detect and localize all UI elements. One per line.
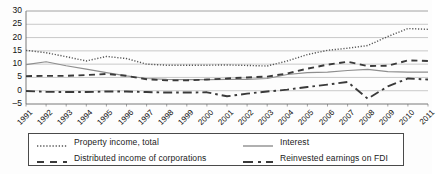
legend-item-interest: Interest xyxy=(225,134,405,150)
legend-label-interest: Interest xyxy=(280,137,309,147)
y-axis-tick-label: 30 xyxy=(0,5,22,15)
y-axis-tick-label: 10 xyxy=(0,58,22,68)
legend-label-reinvested-earnings: Reinvested earnings on FDI xyxy=(280,153,388,163)
y-axis-tick-label: 15 xyxy=(0,45,22,55)
legend-item-property-income: Property income, total xyxy=(29,134,225,150)
series-line-property-income-total xyxy=(26,29,428,66)
solid-line-swatch xyxy=(243,137,273,147)
legend-label-property-income: Property income, total xyxy=(74,137,159,147)
longdash-line-swatch xyxy=(243,153,273,163)
legend-item-reinvested-earnings: Reinvested earnings on FDI xyxy=(225,150,405,166)
y-axis-tick-label: 0 xyxy=(0,85,22,95)
legend-item-distributed-income: Distributed income of corporations xyxy=(29,150,225,166)
y-axis-tick-label: 25 xyxy=(0,18,22,28)
series-line-reinvested-earnings-on-fdi xyxy=(26,78,428,98)
dotted-line-swatch xyxy=(37,137,67,147)
y-axis-tick-label: 20 xyxy=(0,32,22,42)
dashed-line-swatch xyxy=(37,153,67,163)
y-axis-tick-label: –5 xyxy=(0,98,22,108)
legend-label-distributed-income: Distributed income of corporations xyxy=(74,153,206,163)
y-axis-tick-label: 5 xyxy=(0,71,22,81)
chart-legend: Property income, total Interest Distribu… xyxy=(28,133,404,166)
